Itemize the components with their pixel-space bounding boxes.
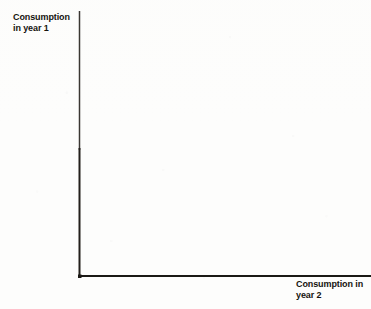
axes-origin-corner — [78, 275, 82, 279]
axes-graphic — [0, 0, 371, 309]
x-axis-label: Consumption in year 2 — [296, 279, 363, 300]
y-axis-label: Consumption in year 1 — [13, 12, 70, 33]
figure-root: Consumption in year 1 Consumption in yea… — [0, 0, 371, 309]
